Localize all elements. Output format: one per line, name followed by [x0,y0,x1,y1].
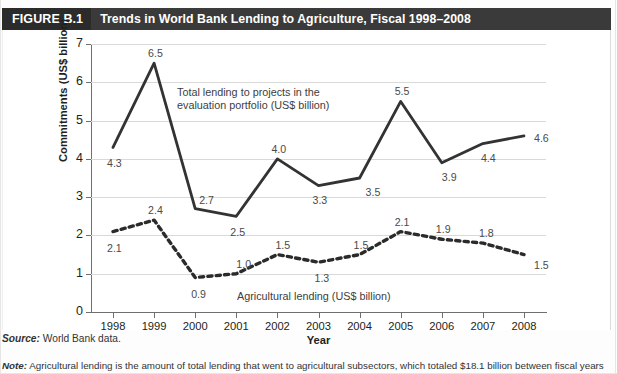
note-line: Note: Agricultural lending is the amount… [2,360,617,371]
data-label-s1-1998: 2.1 [107,242,122,254]
data-label-s0-2008: 4.6 [534,132,549,144]
x-tick-2007 [483,312,484,318]
agricultural-lending-annotation: Agricultural lending (US$ billion) [237,290,391,303]
x-tick-2006 [442,312,443,318]
data-label-s1-1999: 2.4 [148,204,163,216]
data-label-s0-1998: 4.3 [107,157,122,169]
figure-page: FIGURE B.1 Trends in World Bank Lending … [0,0,617,374]
source-line: Source: World Bank data. [2,332,611,346]
data-label-s0-2002: 4.0 [271,143,286,155]
total-lending-annotation-line2: evaluation portfolio (US$ billion) [177,99,329,112]
agricultural-lending-annotation-line1: Agricultural lending (US$ billion) [237,290,391,303]
y-tick-label-2: 2 [57,227,83,241]
figure-title: Trends in World Bank Lending to Agricult… [91,12,471,26]
chart-panel: 01234567 1998199920002001200220032004200… [2,30,611,330]
data-label-s1-2003: 1.3 [315,272,330,284]
y-tick-label-3: 3 [57,189,83,203]
note-text: Agricultural lending is the amount of to… [29,360,604,371]
total-lending-annotation: Total lending to projects in the evaluat… [177,86,329,112]
y-tick-label-0: 0 [57,304,83,318]
figure-header-bar: FIGURE B.1 Trends in World Bank Lending … [2,8,611,30]
data-label-s1-2002: 1.5 [275,239,290,251]
data-label-s1-2004: 1.5 [354,239,369,251]
data-label-s1-2008: 1.5 [534,259,549,271]
y-tick-0 [86,312,91,313]
source-text: World Bank data. [43,333,121,344]
series-line-1 [113,220,524,277]
data-label-s0-2003: 3.3 [313,194,328,206]
note-label: Note: [2,360,27,371]
data-label-s1-2006: 1.9 [436,223,451,235]
x-tick-1999 [154,312,155,318]
source-label: Source: [2,333,40,344]
x-tick-2004 [360,312,361,318]
x-tick-1998 [113,312,114,318]
x-tick-2005 [401,312,402,318]
data-label-s1-2005: 2.1 [395,216,410,228]
data-label-s0-1999: 6.5 [148,47,163,59]
page-edge-left [0,0,1,374]
data-label-s0-2007: 4.4 [481,152,496,164]
x-tick-2000 [195,312,196,318]
y-tick-label-1: 1 [57,266,83,280]
data-label-s0-2001: 2.5 [230,226,245,238]
data-label-s0-2004: 3.5 [366,186,381,198]
total-lending-annotation-line1: Total lending to projects in the [177,86,329,99]
figure-footnotes: Source: World Bank data. [2,332,611,349]
data-label-s1-2001: 1.0 [236,258,251,270]
data-label-s0-2000: 2.7 [199,194,214,206]
x-tick-2008 [524,312,525,318]
plot-area: 01234567 1998199920002001200220032004200… [91,44,546,312]
page-edge-right [615,0,616,374]
y-axis-label: Commitments (US$ billion) [57,19,69,162]
figure-number-tag: FIGURE B.1 [2,8,91,30]
x-tick-label-2008: 2008 [500,320,548,332]
x-tick-2003 [319,312,320,318]
x-tick-2001 [236,312,237,318]
data-label-s1-2007: 1.8 [479,227,494,239]
data-label-s1-2000: 0.9 [191,288,206,300]
x-tick-2002 [277,312,278,318]
data-label-s0-2005: 5.5 [395,85,410,97]
data-label-s0-2006: 3.9 [442,171,457,183]
